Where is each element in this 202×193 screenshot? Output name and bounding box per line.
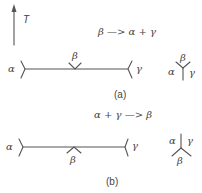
panel-b-middle-phase-label: β — [70, 155, 76, 165]
panel-b-junction-left-label: α — [169, 136, 176, 146]
temperature-axis-label: T — [23, 15, 29, 25]
panel-a-junction-left-label: α — [168, 67, 175, 77]
panel-b-junction-right-label: γ — [187, 136, 193, 146]
panel-a-reaction: β —> α + γ — [98, 27, 156, 37]
panel-a-tie-line — [21, 61, 132, 78]
panel-a-junction-top-label: β — [180, 53, 186, 63]
panel-b-caption: (b) — [106, 177, 118, 187]
panel-a-junction-right-label: γ — [189, 68, 195, 78]
panel-b-junction-bottom-label: β — [177, 156, 183, 166]
panel-a-left-phase-label: α — [8, 64, 15, 74]
panel-a-caption: (a) — [114, 90, 126, 100]
panel-b-reaction: α + γ —> β — [94, 110, 152, 120]
panel-a-right-phase-label: γ — [136, 64, 142, 74]
panel-a-middle-phase-label: β — [72, 51, 78, 61]
temperature-arrow-icon — [12, 4, 17, 45]
panel-b-right-phase-label: γ — [132, 141, 138, 151]
panel-b-left-phase-label: α — [6, 142, 13, 152]
panel-a-triple-junction-icon — [176, 62, 190, 80]
